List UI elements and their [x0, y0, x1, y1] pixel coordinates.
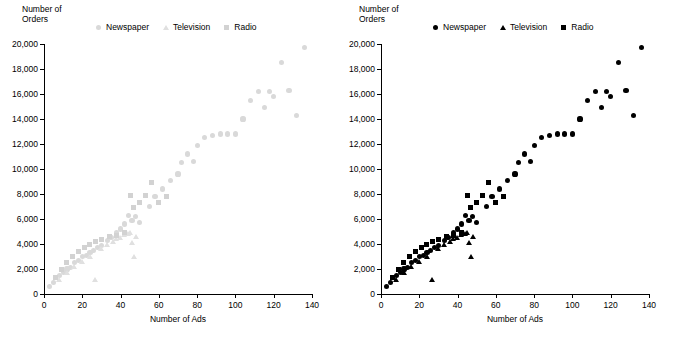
- legend-item-radio[interactable]: Radio: [224, 22, 256, 32]
- y-tick-label: 8,000: [337, 189, 375, 199]
- marker-square: [114, 233, 119, 238]
- x-tick-label: 60: [481, 300, 511, 310]
- marker-circle: [631, 113, 636, 118]
- y-tick: [377, 119, 381, 120]
- x-tick-label: 0: [366, 300, 396, 310]
- marker-circle: [570, 131, 575, 136]
- marker-triangle: [131, 254, 137, 259]
- x-tick: [197, 294, 198, 298]
- marker-square: [430, 239, 435, 244]
- marker-square: [459, 230, 464, 235]
- y-tick-label: 2,000: [337, 264, 375, 274]
- marker-square: [419, 245, 424, 250]
- y-tick: [377, 69, 381, 70]
- marker-circle: [555, 131, 560, 136]
- marker-circle: [185, 151, 190, 156]
- marker-square: [480, 193, 485, 198]
- marker-triangle: [408, 264, 414, 269]
- marker-circle: [168, 178, 173, 183]
- legend-marker: [433, 24, 440, 31]
- marker-triangle: [129, 240, 135, 245]
- marker-circle: [522, 151, 527, 156]
- marker-triangle: [71, 264, 77, 269]
- legend-item-television[interactable]: Television: [163, 22, 210, 32]
- y-axis-title: Number ofOrders: [359, 4, 399, 24]
- marker-circle: [133, 214, 138, 219]
- y-tick-label: 0: [0, 289, 38, 299]
- marker-triangle: [424, 254, 430, 259]
- marker-square: [128, 193, 133, 198]
- marker-circle: [160, 186, 165, 191]
- x-tick: [381, 294, 382, 298]
- y-tick-label: 12,000: [337, 139, 375, 149]
- legend-marker: [224, 24, 231, 31]
- plot-area: 02,0004,0006,0008,00010,00012,00014,0001…: [44, 44, 312, 294]
- marker-triangle: [466, 240, 472, 245]
- marker-triangle: [429, 277, 435, 282]
- y-tick-label: 0: [337, 289, 375, 299]
- marker-circle: [147, 204, 152, 209]
- y-tick-label: 14,000: [337, 114, 375, 124]
- marker-square: [486, 180, 491, 185]
- y-tick-label: 10,000: [0, 164, 38, 174]
- y-tick-label: 6,000: [0, 214, 38, 224]
- y-tick-label: 18,000: [337, 64, 375, 74]
- marker-circle: [528, 159, 533, 164]
- marker-circle: [137, 220, 142, 225]
- y-axis-title-line1: Number of: [22, 4, 62, 14]
- x-tick-label: 20: [404, 300, 434, 310]
- x-tick: [121, 294, 122, 298]
- y-axis-title-line2: Orders: [359, 14, 399, 24]
- legend-item-newspaper[interactable]: Newspaper: [433, 22, 486, 32]
- x-axis-title: Number of Ads: [381, 314, 649, 324]
- marker-circle: [539, 135, 544, 140]
- marker-circle: [505, 178, 510, 183]
- marker-circle: [286, 88, 291, 93]
- marker-square: [396, 267, 401, 272]
- x-axis-line: [381, 294, 649, 295]
- marker-triangle: [401, 270, 407, 275]
- marker-circle: [470, 214, 475, 219]
- marker-square: [149, 180, 154, 185]
- y-tick: [377, 269, 381, 270]
- marker-square: [53, 275, 58, 280]
- x-tick: [312, 294, 313, 298]
- marker-square: [451, 233, 456, 238]
- marker-square: [87, 242, 92, 247]
- marker-triangle: [87, 254, 93, 259]
- marker-square: [501, 194, 506, 199]
- legend-marker: [561, 24, 568, 31]
- y-tick: [40, 144, 44, 145]
- marker-square: [465, 193, 470, 198]
- y-tick: [377, 144, 381, 145]
- marker-square: [474, 200, 479, 205]
- legend-item-television[interactable]: Television: [500, 22, 547, 32]
- y-tick: [40, 69, 44, 70]
- marker-triangle: [468, 254, 474, 259]
- marker-circle: [474, 220, 479, 225]
- y-axis-title-line1: Number of: [359, 4, 399, 14]
- legend-label: Television: [173, 22, 210, 32]
- legend-marker: [96, 24, 103, 31]
- marker-circle: [210, 133, 215, 138]
- legend-label: Radio: [234, 22, 256, 32]
- y-tick: [40, 244, 44, 245]
- marker-square: [436, 237, 441, 242]
- marker-circle: [433, 25, 438, 30]
- marker-square: [82, 245, 87, 250]
- x-tick: [419, 294, 420, 298]
- legend-item-radio[interactable]: Radio: [561, 22, 593, 32]
- legend: NewspaperTelevisionRadio: [96, 22, 257, 32]
- marker-circle: [179, 160, 184, 165]
- marker-circle: [577, 116, 582, 121]
- y-tick-label: 12,000: [0, 139, 38, 149]
- marker-triangle: [416, 259, 422, 264]
- marker-circle: [302, 45, 307, 50]
- y-tick: [40, 194, 44, 195]
- legend-label: Newspaper: [443, 22, 486, 32]
- marker-circle: [516, 160, 521, 165]
- x-axis-title: Number of Ads: [44, 314, 312, 324]
- x-tick-label: 140: [634, 300, 664, 310]
- legend-item-newspaper[interactable]: Newspaper: [96, 22, 149, 32]
- legend-marker: [500, 24, 507, 31]
